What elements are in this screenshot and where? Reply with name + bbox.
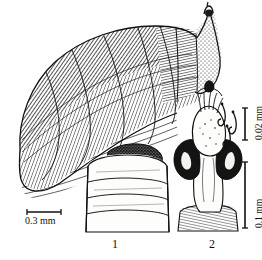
scale-bar-label-0-02mm: 0.02 mm	[255, 106, 262, 140]
scale-bar-vertical-0-1mm	[242, 162, 248, 228]
figure-number-1: 1	[112, 238, 118, 250]
illustration-plate: 0.3 mm 0.02 mm 0.1 mm 1 2	[0, 0, 262, 260]
scale-bar-vertical-0-02mm	[242, 108, 248, 140]
figure-number-2: 2	[209, 238, 215, 250]
scale-bar-label-0-1mm: 0.1 mm	[255, 199, 262, 228]
scale-bar-label-0-3mm: 0.3 mm	[25, 216, 56, 226]
